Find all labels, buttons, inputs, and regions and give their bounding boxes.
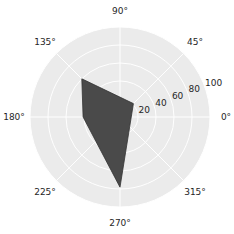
- angular-tick-label: 45°: [187, 37, 203, 47]
- angular-tick-label: 0°: [221, 112, 231, 122]
- angular-tick-label: 225°: [34, 187, 56, 197]
- angular-tick-label: 180°: [3, 112, 25, 122]
- angular-tick-label: 90°: [112, 6, 128, 16]
- angular-tick-label: 135°: [34, 37, 56, 47]
- radial-tick-label: 20: [139, 105, 151, 115]
- polar-plot: 0°45°90°135°180°225°270°315° 20406080100: [0, 0, 234, 234]
- angular-tick-label: 270°: [109, 218, 131, 228]
- radial-tick-label: 60: [172, 91, 184, 101]
- angular-tick-label: 315°: [184, 187, 206, 197]
- radial-tick-label: 40: [155, 98, 167, 108]
- polar-chart: 0°45°90°135°180°225°270°315° 20406080100: [0, 0, 234, 234]
- radial-tick-label: 100: [205, 78, 222, 88]
- radial-tick-label: 80: [189, 84, 201, 94]
